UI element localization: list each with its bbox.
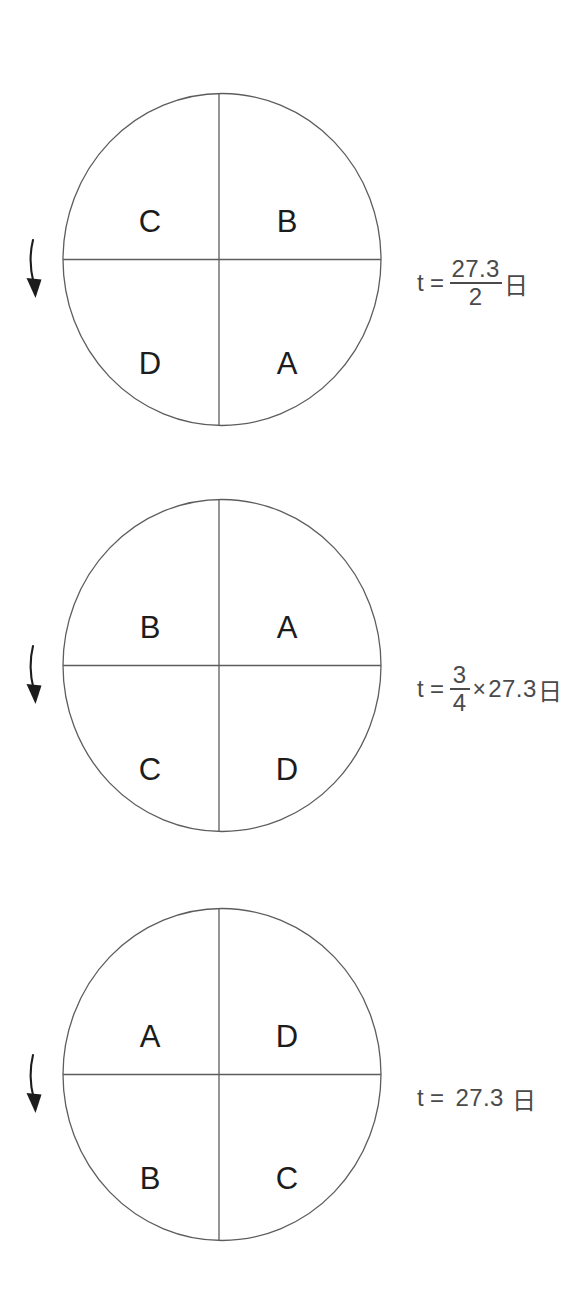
- rotation-arrow-down-icon: [16, 642, 60, 714]
- formula-factor: 27.3: [488, 675, 536, 703]
- quadrant-label-bottom-left: D: [130, 348, 170, 379]
- formula-unit: 日: [538, 672, 562, 707]
- formula-variable: t: [417, 675, 424, 703]
- formula-3: t = 27.3 日: [417, 1063, 536, 1133]
- quadrant-label-bottom-right: C: [267, 1163, 307, 1194]
- quadrant-label-top-left: C: [130, 206, 170, 237]
- rotation-arrow-down-icon: [16, 1051, 60, 1123]
- formula-equals: =: [430, 1084, 444, 1112]
- quadrant-label-top-right: B: [267, 206, 307, 237]
- formula-2: t = 3 4 × 27.3 日: [417, 654, 562, 724]
- formula-equals: =: [430, 675, 444, 703]
- fraction-numerator: 27.3: [450, 257, 502, 282]
- formula-value: 27.3: [456, 1084, 504, 1112]
- formula-fraction: 3 4: [450, 663, 470, 715]
- quadrant-label-bottom-right: A: [267, 348, 307, 379]
- quadrant-circle-3: A D B C: [62, 908, 382, 1241]
- fraction-denominator: 4: [451, 690, 469, 715]
- quadrant-label-bottom-left: C: [130, 754, 170, 785]
- quadrant-label-top-left: B: [130, 612, 170, 643]
- diagram-page: C B D A t = 27.3 2 日: [0, 0, 579, 1293]
- figure-3: A D B C t = 27.3 日: [0, 873, 579, 1279]
- quadrant-label-top-left: A: [130, 1021, 170, 1052]
- formula-equals: =: [430, 269, 444, 297]
- formula-fraction: 27.3 2: [450, 257, 502, 309]
- formula-1: t = 27.3 2 日: [417, 248, 528, 318]
- quadrant-label-bottom-left: B: [130, 1163, 170, 1194]
- rotation-arrow-down-icon: [16, 236, 60, 308]
- figure-2: B A C D t = 3 4 × 27.3 日: [0, 464, 579, 870]
- quadrant-label-top-right: D: [267, 1021, 307, 1052]
- quadrant-circle-1: C B D A: [62, 93, 382, 426]
- fraction-denominator: 2: [467, 284, 485, 309]
- quadrant-label-top-right: A: [267, 612, 307, 643]
- formula-variable: t: [417, 269, 424, 297]
- formula-variable: t: [417, 1084, 424, 1112]
- formula-unit: 日: [504, 266, 528, 301]
- fraction-numerator: 3: [451, 663, 469, 688]
- formula-times-symbol: ×: [473, 676, 487, 703]
- quadrant-circle-2: B A C D: [62, 499, 382, 832]
- figure-1: C B D A t = 27.3 2 日: [0, 58, 579, 464]
- quadrant-label-bottom-right: D: [267, 754, 307, 785]
- formula-unit: 日: [512, 1081, 536, 1116]
